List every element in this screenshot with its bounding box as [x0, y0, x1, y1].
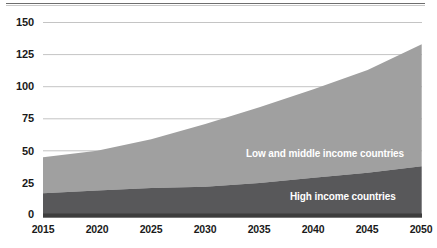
x-tick-label-2020: 2020 [77, 224, 117, 235]
y-tick-label-50: 50 [2, 146, 34, 157]
x-tick-label-2045: 2045 [347, 224, 387, 235]
y-tick-label-75: 75 [2, 113, 34, 124]
y-tick-label-100: 100 [2, 81, 34, 92]
series-label-low-and-middle-income-countries: Low and middle income countries [246, 149, 404, 159]
y-tick-label-0: 0 [2, 209, 34, 220]
x-tick-label-2015: 2015 [23, 224, 63, 235]
y-tick-label-25: 25 [2, 178, 34, 189]
x-tick-label-2030: 2030 [185, 224, 225, 235]
y-tick-label-150: 150 [2, 17, 34, 28]
x-tick-label-2050: 2050 [401, 224, 437, 235]
x-axis-line [43, 214, 422, 218]
y-tick-label-125: 125 [2, 49, 34, 60]
x-tick-label-2035: 2035 [239, 224, 279, 235]
x-tick-label-2025: 2025 [131, 224, 171, 235]
series-label-high-income-countries: High income countries [290, 192, 396, 202]
x-tick-label-2040: 2040 [293, 224, 333, 235]
